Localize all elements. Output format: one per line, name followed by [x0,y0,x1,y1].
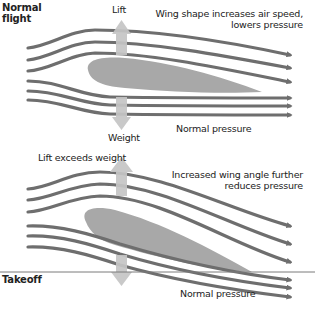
note-line-2: lowers pressure [133,19,303,30]
weight-label: Weight [108,132,140,143]
lift-label: Lift [112,4,126,15]
lift-exceeds-weight-label: Lift exceeds weight [38,152,126,163]
panel-title-takeoff: Takeoff [2,274,42,285]
normal-pressure-label-takeoff: Normal pressure [180,288,255,299]
normal-flight-panel [28,20,290,130]
wing-shape-note: Wing shape increases air speed, lowers p… [133,8,303,30]
weight-arrow-takeoff [111,255,132,286]
lift-arrow [112,20,131,55]
note-line-1: Increased wing angle further [133,169,303,180]
title-line-2: flight [2,13,42,24]
panel-title-normal-flight: Normal flight [2,2,42,24]
title-line-1: Normal [2,2,42,13]
wing-shape [88,58,262,93]
note-line-1: Wing shape increases air speed, [133,8,303,19]
wing-angle-note: Increased wing angle further reduces pre… [133,169,303,191]
note-line-2: reduces pressure [133,180,303,191]
normal-pressure-label: Normal pressure [176,123,251,134]
